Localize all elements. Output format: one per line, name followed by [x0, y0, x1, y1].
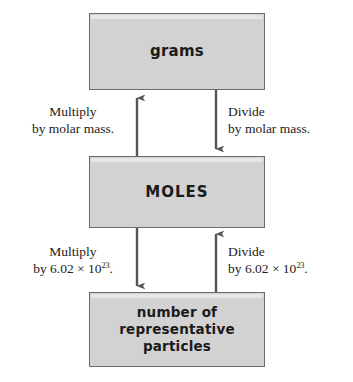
- particles-label-line-2: representative: [119, 321, 235, 337]
- caption-divide-molar-mass: Divide by molar mass.: [228, 103, 353, 138]
- caption-line-2: by 6.02 × 1023.: [228, 260, 353, 277]
- caption-divide-avogadro: Divide by 6.02 × 1023.: [228, 243, 353, 278]
- box-particles-label: number of representative particles: [119, 304, 235, 355]
- particles-label-line-1: number of: [137, 304, 217, 320]
- box-highlight: [91, 158, 263, 162]
- caption-line-2: by 6.02 × 1023.: [14, 260, 132, 277]
- caption-line-2: by molar mass.: [14, 120, 132, 137]
- diagram-canvas: grams MOLES number of representative par…: [0, 0, 353, 382]
- box-moles-label: MOLES: [145, 183, 208, 202]
- box-grams-label: grams: [150, 42, 204, 61]
- caption-multiply-avogadro: Multiply by 6.02 × 1023.: [14, 243, 132, 278]
- avogadro-suffix: .: [109, 261, 112, 276]
- caption-multiply-molar-mass: Multiply by molar mass.: [14, 103, 132, 138]
- avogadro-prefix: by 6.02 × 10: [33, 261, 101, 276]
- particles-label-line-3: particles: [143, 338, 211, 354]
- avogadro-suffix: .: [304, 261, 307, 276]
- box-grams: grams: [89, 13, 265, 90]
- caption-line-2: by molar mass.: [228, 120, 353, 137]
- avogadro-prefix: by 6.02 × 10: [228, 261, 296, 276]
- box-representative-particles: number of representative particles: [89, 292, 265, 367]
- caption-line-1: Multiply: [14, 243, 132, 260]
- box-moles: MOLES: [89, 156, 265, 228]
- caption-line-1: Divide: [228, 243, 353, 260]
- caption-line-1: Divide: [228, 103, 353, 120]
- box-highlight: [91, 15, 263, 19]
- caption-line-1: Multiply: [14, 103, 132, 120]
- box-highlight: [91, 294, 263, 298]
